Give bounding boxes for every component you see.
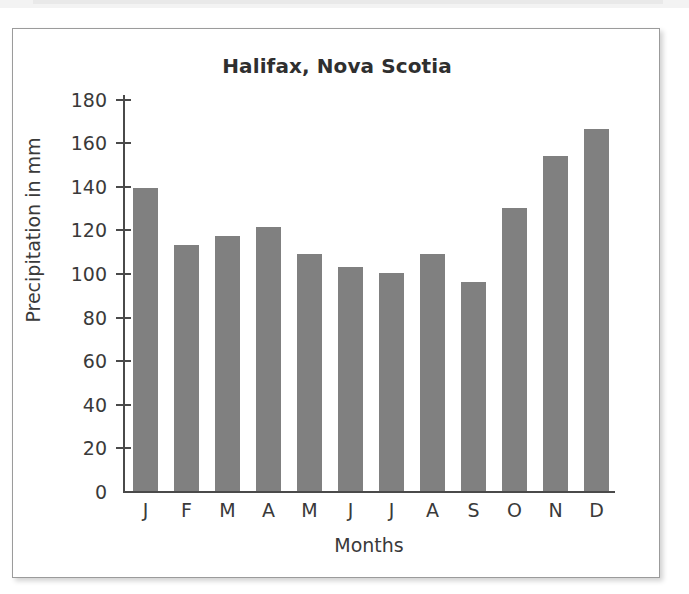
bar-jan: [133, 188, 158, 491]
bar-may: [297, 254, 322, 491]
y-axis-tick: [116, 317, 131, 319]
bar-mar: [215, 236, 240, 491]
x-axis-tick-label: A: [248, 499, 290, 521]
bar-aug: [420, 254, 445, 491]
y-axis-line: [123, 95, 125, 493]
x-axis-title: Months: [123, 534, 615, 556]
x-axis-tick-label: M: [289, 499, 331, 521]
x-axis-tick-label: J: [125, 499, 167, 521]
y-axis-tick-label: 40: [45, 394, 107, 416]
bar-oct: [502, 208, 527, 491]
x-axis-line: [123, 491, 615, 493]
y-axis-tick-label: 100: [45, 263, 107, 285]
chart-figure-frame: Halifax, Nova Scotia Precipitation in mm…: [12, 28, 660, 578]
y-axis-tick-label: 20: [45, 437, 107, 459]
bar-jul: [379, 273, 404, 491]
bar-nov: [543, 156, 568, 491]
y-axis-tick: [116, 447, 131, 449]
x-axis-tick-label: J: [371, 499, 413, 521]
x-axis-tick-label: A: [412, 499, 454, 521]
y-axis-tick: [116, 142, 131, 144]
bar-jun: [338, 267, 363, 491]
scan-top-strip-line: [33, 0, 663, 4]
bar-sep: [461, 282, 486, 491]
x-axis-tick-label: F: [166, 499, 208, 521]
scan-top-strip: [0, 0, 689, 8]
x-axis-tick-label: O: [494, 499, 536, 521]
plot-area: Precipitation in mm 180 160 140 120 100 …: [13, 29, 661, 579]
x-axis-tick-label: D: [576, 499, 618, 521]
y-axis-tick-label: 180: [45, 89, 107, 111]
y-axis-tick-label: 120: [45, 219, 107, 241]
y-axis-tick: [116, 273, 131, 275]
y-axis-tick-label: 160: [45, 132, 107, 154]
y-axis-title: Precipitation in mm: [22, 70, 44, 390]
bar-apr: [256, 227, 281, 491]
x-axis-tick-label: M: [207, 499, 249, 521]
y-axis-tick-label: 0: [45, 481, 107, 503]
x-axis-tick-label: S: [453, 499, 495, 521]
y-axis-tick: [116, 186, 131, 188]
x-axis-tick-label: N: [535, 499, 577, 521]
y-axis-tick: [116, 360, 131, 362]
y-axis-tick-label: 60: [45, 350, 107, 372]
bar-feb: [174, 245, 199, 491]
y-axis-tick: [116, 229, 131, 231]
y-axis-tick: [116, 404, 131, 406]
y-axis-tick-label: 80: [45, 307, 107, 329]
y-axis-tick-label: 140: [45, 176, 107, 198]
y-axis-tick: [116, 99, 131, 101]
x-axis-tick-label: J: [330, 499, 372, 521]
bar-dec: [584, 129, 609, 491]
